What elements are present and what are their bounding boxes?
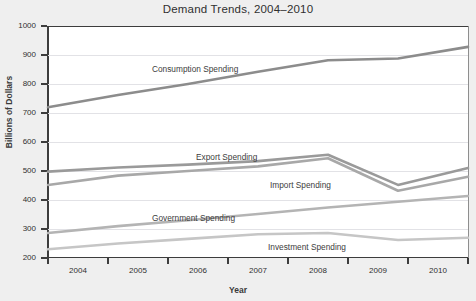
x-tick-label: 2004 bbox=[55, 266, 101, 275]
y-tick-label: 500 bbox=[2, 166, 36, 175]
x-tick-mark bbox=[467, 258, 468, 264]
x-tick-mark bbox=[287, 258, 288, 264]
x-tick-mark bbox=[407, 258, 408, 264]
series-label: Government Spending bbox=[152, 213, 235, 223]
x-tick-mark bbox=[107, 258, 108, 264]
y-tick-mark bbox=[41, 25, 47, 26]
gridline bbox=[48, 84, 468, 85]
gridline bbox=[48, 200, 468, 201]
y-tick-mark bbox=[41, 199, 47, 200]
gridline bbox=[48, 171, 468, 172]
x-tick-mark bbox=[47, 258, 48, 264]
x-tick-label: 2006 bbox=[175, 266, 221, 275]
series-label: Consumption Spending bbox=[152, 64, 238, 74]
x-tick-label: 2007 bbox=[235, 266, 281, 275]
y-tick-label: 700 bbox=[2, 108, 36, 117]
series-label: Export Spending bbox=[196, 152, 257, 162]
x-tick-label: 2005 bbox=[115, 266, 161, 275]
y-tick-label: 600 bbox=[2, 137, 36, 146]
x-tick-mark bbox=[347, 258, 348, 264]
series-label: Investment Spending bbox=[268, 242, 346, 252]
y-tick-mark bbox=[41, 170, 47, 171]
demand-trends-chart: Demand Trends, 2004–2010 Billions of Dol… bbox=[0, 0, 476, 301]
y-tick-label: 900 bbox=[2, 50, 36, 59]
x-tick-label: 2008 bbox=[295, 266, 341, 275]
x-tick-label: 2009 bbox=[355, 266, 401, 275]
y-tick-label: 200 bbox=[2, 253, 36, 262]
chart-title: Demand Trends, 2004–2010 bbox=[0, 3, 476, 15]
y-tick-label: 400 bbox=[2, 195, 36, 204]
y-tick-mark bbox=[41, 112, 47, 113]
plot-right-border bbox=[468, 26, 469, 258]
y-tick-mark bbox=[41, 257, 47, 258]
x-axis-label: Year bbox=[0, 285, 476, 295]
x-tick-label: 2010 bbox=[415, 266, 461, 275]
gridline bbox=[48, 113, 468, 114]
gridline bbox=[48, 142, 468, 143]
y-tick-mark bbox=[41, 141, 47, 142]
y-tick-label: 300 bbox=[2, 224, 36, 233]
series-label: Import Spending bbox=[270, 180, 331, 190]
x-tick-mark bbox=[167, 258, 168, 264]
y-tick-label: 1000 bbox=[2, 21, 36, 30]
gridline bbox=[48, 229, 468, 230]
y-tick-label: 800 bbox=[2, 79, 36, 88]
y-tick-mark bbox=[41, 54, 47, 55]
x-tick-mark bbox=[227, 258, 228, 264]
gridline bbox=[48, 55, 468, 56]
y-tick-mark bbox=[41, 228, 47, 229]
y-tick-mark bbox=[41, 83, 47, 84]
